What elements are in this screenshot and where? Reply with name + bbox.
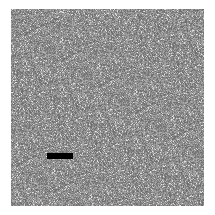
black-marker-bar bbox=[47, 153, 73, 159]
gray-noise-field bbox=[11, 9, 204, 206]
noise-texture bbox=[11, 9, 204, 206]
